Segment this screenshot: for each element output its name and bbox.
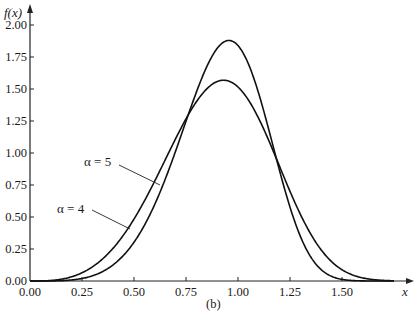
x-tick-label: 0.75 [175, 285, 197, 299]
alpha-5-leader-line [119, 165, 160, 185]
x-axis-label: x [401, 284, 408, 299]
y-tick-label: 0.50 [5, 210, 27, 224]
axes [27, 4, 414, 284]
y-axis-label: f(x) [4, 5, 22, 20]
alpha-5-label: α = 5 [84, 154, 111, 169]
x-tick-label: 1.25 [279, 285, 301, 299]
tick-marks: 0.000.250.500.751.001.251.501.752.000.00… [5, 18, 353, 299]
x-tick-label: 0.00 [19, 285, 41, 299]
y-axis-arrow-icon [27, 4, 33, 13]
alpha-4-leader-line [92, 210, 130, 229]
x-tick-label: 1.00 [227, 285, 249, 299]
y-tick-label: 2.00 [5, 18, 27, 32]
y-tick-label: 0.75 [5, 178, 27, 192]
y-tick-label: 1.00 [5, 146, 27, 160]
alpha-4-label: α = 4 [57, 201, 85, 216]
y-tick-label: 1.25 [5, 114, 27, 128]
y-tick-label: 1.50 [5, 82, 27, 96]
figure-caption: (b) [206, 297, 221, 311]
y-tick-label: 1.75 [5, 50, 27, 64]
weibull-density-chart: 0.000.250.500.751.001.251.501.752.000.00… [0, 0, 417, 315]
y-tick-label: 0.25 [5, 242, 27, 256]
x-tick-label: 0.50 [123, 285, 145, 299]
curve-annotations [92, 165, 160, 229]
x-tick-label: 0.25 [71, 285, 93, 299]
x-tick-label: 1.50 [331, 285, 353, 299]
curve-alpha-4 [30, 80, 394, 281]
